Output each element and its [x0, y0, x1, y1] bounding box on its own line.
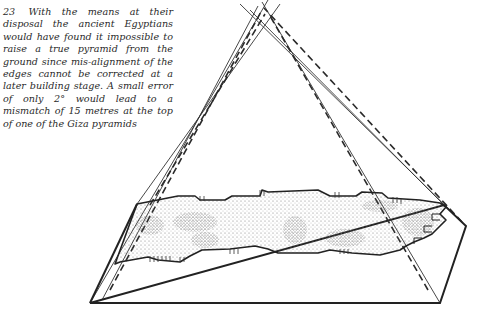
pyramid-diagram — [0, 0, 491, 329]
masonry-region — [115, 190, 446, 264]
